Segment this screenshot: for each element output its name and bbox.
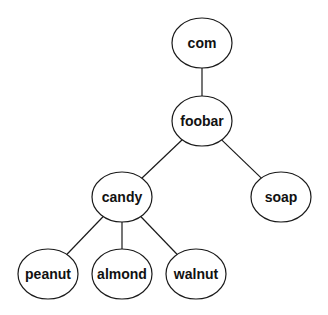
edge-foobar-soap: [222, 140, 262, 178]
node-candy: candy: [92, 172, 152, 222]
node-label: candy: [102, 189, 143, 205]
node-peanut: peanut: [18, 249, 78, 299]
node-label: almond: [97, 266, 147, 282]
node-label: foobar: [180, 113, 224, 129]
node-foobar: foobar: [172, 96, 232, 146]
node-label: soap: [265, 189, 298, 205]
node-label: com: [188, 35, 217, 51]
tree-diagram: comfoobarcandysoappeanutalmondwalnut: [0, 0, 328, 315]
node-soap: soap: [251, 172, 311, 222]
edge-foobar-candy: [142, 140, 182, 178]
edge-candy-peanut: [67, 217, 103, 255]
edges-group: [67, 68, 262, 254]
node-label: peanut: [25, 266, 71, 282]
node-com: com: [172, 18, 232, 68]
edge-candy-walnut: [141, 217, 177, 255]
node-walnut: walnut: [166, 249, 226, 299]
node-almond: almond: [92, 249, 152, 299]
nodes-group: comfoobarcandysoappeanutalmondwalnut: [18, 18, 311, 299]
node-label: walnut: [173, 266, 219, 282]
